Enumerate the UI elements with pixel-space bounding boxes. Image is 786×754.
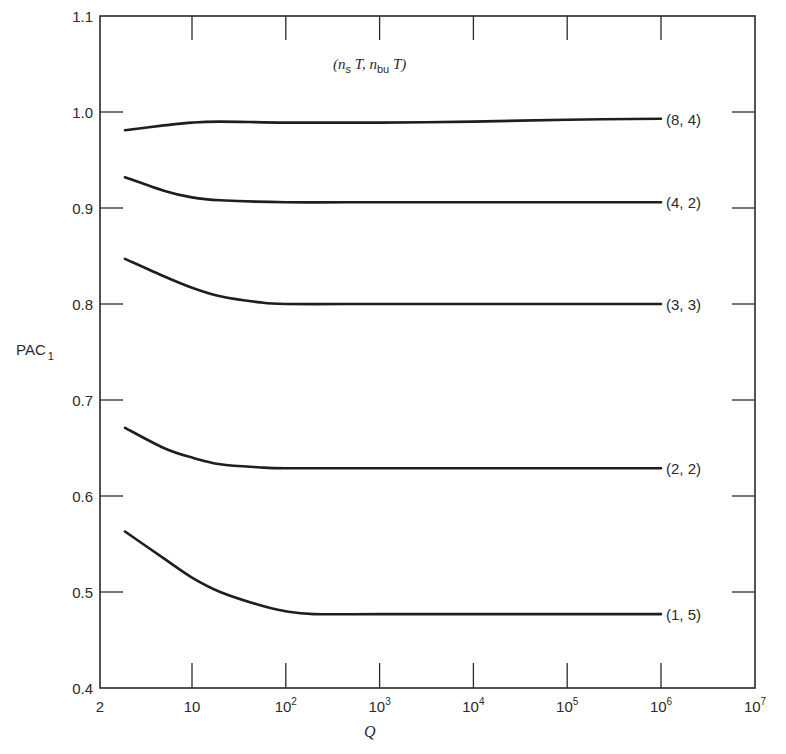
plot-border	[100, 16, 755, 688]
y-axis-label: PAC1	[16, 341, 54, 362]
x-tick-label: 102	[275, 696, 298, 715]
x-tick-labels: 210102103104105106107	[96, 696, 767, 715]
x-tick-label: 10	[184, 698, 201, 715]
curve-label: (4, 2)	[666, 194, 701, 211]
curve-series-2	[125, 259, 661, 304]
curve-series-0	[125, 119, 661, 131]
curve-label: (3, 3)	[666, 296, 701, 313]
y-tick-label: 1.1	[72, 8, 93, 25]
y-tick-label: 0.4	[72, 680, 93, 697]
x-tick-label: 105	[556, 696, 579, 715]
curve-label: (1, 5)	[666, 606, 701, 623]
x-tick-label: 106	[650, 696, 673, 715]
legend-title: (ns T, nbu T)	[333, 56, 406, 75]
y-tick-label: 1.0	[72, 104, 93, 121]
x-tick-label: 104	[462, 696, 485, 715]
axis-ticks	[100, 16, 755, 688]
x-tick-label: 103	[368, 696, 391, 715]
y-tick-labels: 0.40.50.60.70.80.91.01.1	[72, 8, 93, 697]
pac-vs-q-chart: 210102103104105106107 0.40.50.60.70.80.9…	[0, 0, 786, 754]
curve-label: (2, 2)	[666, 460, 701, 477]
y-tick-label: 0.8	[72, 296, 93, 313]
y-tick-label: 0.5	[72, 584, 93, 601]
curve-labels: (8, 4)(4, 2)(3, 3)(2, 2)(1, 5)	[666, 111, 701, 623]
curve-series-1	[125, 177, 661, 202]
curves	[125, 119, 661, 615]
y-tick-label: 0.6	[72, 488, 93, 505]
y-tick-label: 0.9	[72, 200, 93, 217]
curve-series-3	[125, 428, 661, 468]
plot-frame	[100, 16, 755, 688]
curve-label: (8, 4)	[666, 111, 701, 128]
curve-series-4	[125, 532, 661, 615]
x-axis-label: Q	[364, 723, 376, 740]
x-tick-label: 2	[96, 698, 104, 715]
y-tick-label: 0.7	[72, 392, 93, 409]
x-tick-label: 107	[744, 696, 767, 715]
